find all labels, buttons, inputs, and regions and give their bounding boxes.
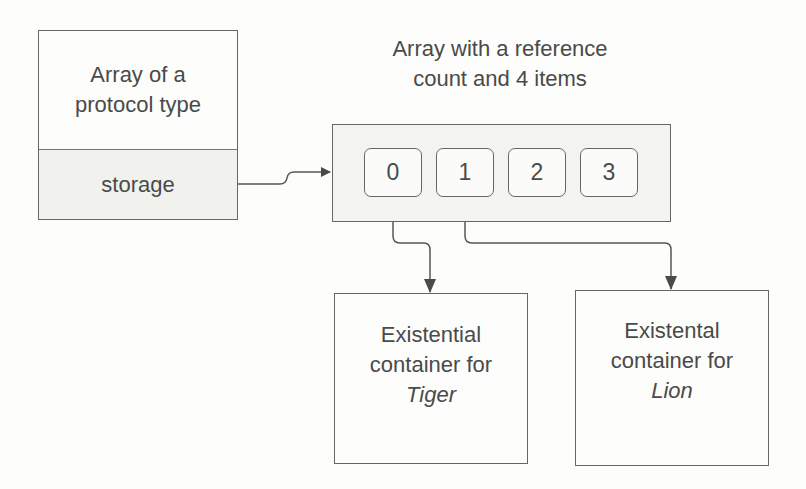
array-caption: Array with a reference count and 4 items	[330, 34, 670, 94]
storage-field: storage	[39, 149, 237, 219]
array-item-0: 0	[364, 148, 422, 197]
array-item-1: 1	[436, 148, 494, 197]
protocol-array-box: Array of a protocol type storage	[38, 30, 238, 220]
lion-container-box: Existental container for Lion	[575, 290, 769, 466]
array-item-3: 3	[580, 148, 638, 197]
protocol-array-title: Array of a protocol type	[39, 31, 237, 149]
tiger-container-box: Existential container for Tiger	[334, 293, 528, 464]
array-item-2: 2	[508, 148, 566, 197]
